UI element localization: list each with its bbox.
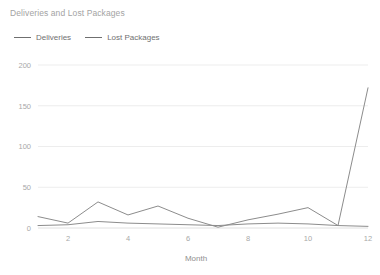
- y-axis-tick-label: 0: [27, 224, 31, 233]
- y-axis-tick-labels: 050100150200: [18, 61, 31, 233]
- series-line-deliveries: [38, 88, 368, 227]
- x-axis-tick-label: 8: [246, 234, 250, 243]
- y-axis-tick-label: 50: [23, 183, 31, 192]
- series-lines-group: [38, 88, 368, 227]
- y-axis-tick-label: 100: [18, 142, 31, 151]
- y-axis-tick-label: 150: [18, 102, 31, 111]
- x-axis-tick-label: 2: [66, 234, 70, 243]
- x-axis-tick-label: 6: [186, 234, 190, 243]
- x-axis-tick-label: 4: [126, 234, 130, 243]
- x-axis-tick-label: 10: [304, 234, 312, 243]
- x-axis-tick-label: 12: [364, 234, 372, 243]
- y-axis-tick-label: 200: [18, 61, 31, 70]
- gridlines-group: [38, 65, 368, 228]
- line-chart-svg: 050100150200 24681012 Month: [0, 0, 380, 275]
- chart-card: Deliveries and Lost Packages Deliveries …: [0, 0, 380, 275]
- x-axis-tick-labels: 24681012: [66, 234, 372, 243]
- x-axis-title: Month: [185, 254, 207, 263]
- plot-area: 050100150200 24681012 Month: [0, 0, 380, 275]
